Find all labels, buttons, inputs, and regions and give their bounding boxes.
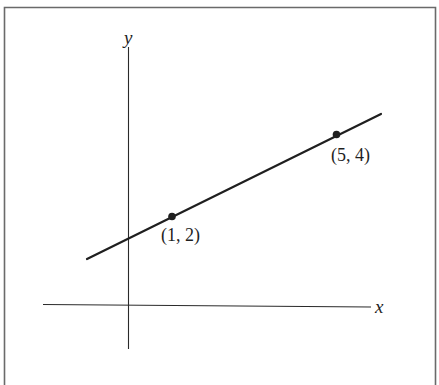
point-marker-5-4 bbox=[333, 131, 341, 139]
x-axis-label: x bbox=[374, 296, 384, 317]
point-label-5-4: (5, 4) bbox=[331, 145, 370, 166]
y-axis-label: y bbox=[122, 27, 133, 48]
x-axis bbox=[43, 305, 371, 308]
figure-frame bbox=[5, 8, 436, 385]
point-label-1-2: (1, 2) bbox=[161, 225, 200, 246]
point-marker-1-2 bbox=[168, 213, 176, 221]
line-graph-figure: y x (1, 2) (5, 4) bbox=[0, 0, 439, 385]
